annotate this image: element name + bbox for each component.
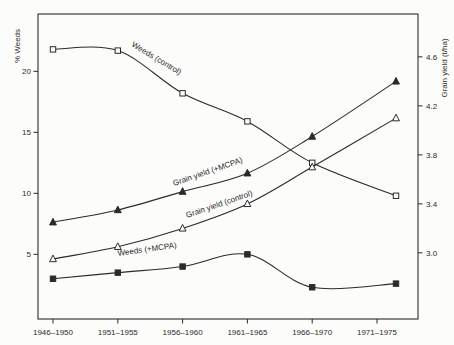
chart-canvas: 51015203.03.43.84.24.61946–19501951–1955…	[0, 0, 454, 345]
marker-filled-square	[180, 264, 185, 269]
x-axis-tick-label: 1966–1970	[292, 328, 333, 337]
y-axis-left-tick-label: 5	[27, 250, 32, 259]
y-axis-right-title: Grain yield (t/ha)	[440, 38, 449, 97]
y-axis-left-tick-label: 20	[22, 67, 31, 76]
y-axis-left-title: % Weeds	[13, 29, 22, 63]
y-axis-right-tick-label: 3.4	[426, 200, 438, 209]
x-axis-tick-label: 1956–1960	[163, 328, 204, 337]
paper-background	[0, 0, 454, 345]
y-axis-left-tick-label: 10	[22, 189, 31, 198]
y-axis-right-tick-label: 3.8	[426, 151, 438, 160]
marker-filled-square	[310, 285, 315, 290]
marker-filled-square	[393, 281, 398, 286]
marker-open-square	[393, 193, 398, 198]
marker-open-square	[180, 91, 185, 96]
marker-open-square	[245, 119, 250, 124]
y-axis-right-tick-label: 3.0	[426, 249, 438, 258]
marker-open-square	[115, 48, 120, 53]
marker-filled-square	[245, 252, 250, 257]
x-axis-tick-label: 1946–1950	[33, 328, 74, 337]
y-axis-left-tick-label: 15	[22, 128, 31, 137]
y-axis-right-tick-label: 4.2	[426, 102, 438, 111]
x-axis-tick-label: 1971–1975	[357, 328, 398, 337]
marker-open-square	[50, 47, 55, 52]
x-axis-tick-label: 1951–1955	[98, 328, 139, 337]
chart-figure: 51015203.03.43.84.24.61946–19501951–1955…	[0, 0, 454, 345]
x-axis-tick-label: 1961–1965	[227, 328, 268, 337]
marker-filled-square	[50, 276, 55, 281]
marker-filled-square	[115, 270, 120, 275]
y-axis-right-tick-label: 4.6	[426, 53, 438, 62]
